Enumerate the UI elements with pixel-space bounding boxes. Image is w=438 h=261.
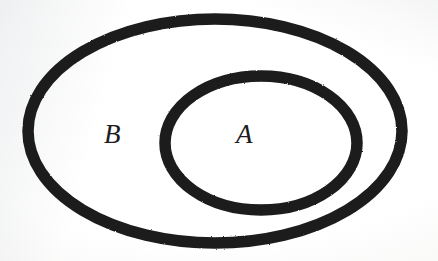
set-a-label: A — [236, 121, 253, 148]
euler-diagram-canvas — [0, 0, 438, 261]
set-b-label: B — [104, 121, 121, 148]
set-b-ellipse — [28, 19, 402, 243]
euler-diagram-figure: B A — [0, 0, 438, 261]
set-a-ellipse — [165, 76, 357, 210]
